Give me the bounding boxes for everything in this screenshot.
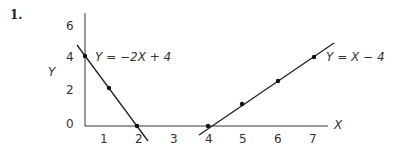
y-tick-4: 4 xyxy=(66,50,74,64)
x-tick-2: 2 xyxy=(135,132,143,146)
point xyxy=(206,124,210,128)
point xyxy=(240,102,244,106)
line-2-label: Y = X − 4 xyxy=(326,50,385,64)
x-tick-4: 4 xyxy=(205,132,213,146)
y-axis-label: Y xyxy=(48,65,57,79)
point xyxy=(312,55,316,59)
point xyxy=(276,79,280,83)
x-tick-6: 6 xyxy=(274,132,282,146)
y-tick-2: 2 xyxy=(66,83,74,97)
point xyxy=(135,124,139,128)
y-tick-0: 0 xyxy=(66,117,74,131)
x-axis-label: X xyxy=(333,118,343,132)
y-tick-6: 6 xyxy=(66,19,74,33)
x-tick-1: 1 xyxy=(100,132,108,146)
point xyxy=(107,86,111,90)
point xyxy=(83,54,87,58)
line-1-label: Y = −2X + 4 xyxy=(95,50,171,64)
x-tick-3: 3 xyxy=(170,132,178,146)
x-tick-7: 7 xyxy=(309,132,317,146)
chart: 6 4 2 0 Y 1 2 3 4 5 6 7 X Y = −2X + 4 Y … xyxy=(0,0,396,146)
x-tick-5: 5 xyxy=(239,132,247,146)
